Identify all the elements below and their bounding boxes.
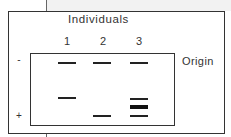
page-background-strip [47,0,231,11]
lane-1-band-1 [58,62,76,64]
lane-2-band-1 [93,62,111,64]
lane-3-band-4 [130,115,148,117]
lane-label-3: 3 [134,35,144,47]
page-divider-line-top [46,0,47,11]
lane-label-2: 2 [98,35,108,47]
lane-label-1: 1 [62,35,72,47]
negative-pole-label: - [15,54,23,65]
lane-2-band-2 [93,115,111,117]
lane-1-band-2 [58,97,76,99]
origin-label: Origin [182,55,214,67]
positive-pole-label: + [15,110,23,121]
lane-3-band-2 [130,98,148,100]
page-divider-line-bottom [46,134,47,137]
lane-3-band-3-thick [130,105,148,109]
lane-3-band-1 [130,62,148,64]
diagram-title: Individuals [68,13,129,25]
